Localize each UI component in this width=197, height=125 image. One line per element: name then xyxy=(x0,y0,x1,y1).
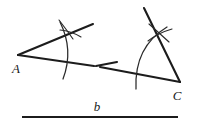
geometry-figure: A C b xyxy=(0,0,197,125)
label-segment-b: b xyxy=(94,99,101,114)
label-vertex-a: A xyxy=(11,61,20,76)
label-vertex-c: C xyxy=(173,88,182,103)
geometry-canvas: A C b xyxy=(0,0,197,125)
